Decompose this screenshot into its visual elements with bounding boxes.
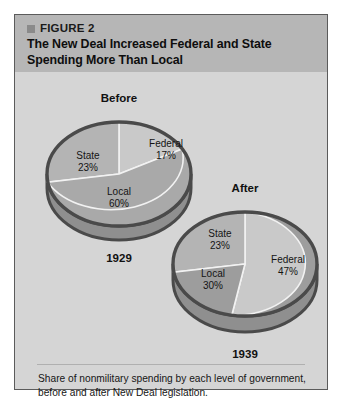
- figure-note: Share of nonmilitary spending by each le…: [38, 372, 318, 399]
- page-title-line-1: The New Deal Increased Federal and State: [27, 37, 317, 53]
- page-title-line-2: Spending More Than Local: [27, 53, 317, 69]
- page-title: The New Deal Increased Federal and State…: [27, 37, 317, 68]
- square-bullet-icon: [27, 25, 35, 33]
- figure-number: FIGURE 2: [40, 22, 95, 34]
- pie-after-title: After: [155, 182, 335, 194]
- pie-after-slice-state: [173, 212, 245, 272]
- figure-body: Before: [15, 72, 327, 391]
- pie-chart-after: After: [155, 182, 335, 372]
- pie-after-graphic: Federal 47% State 23% Local 30%: [169, 202, 321, 340]
- figure-note-line-2: before and after New Deal legislation.: [38, 386, 318, 400]
- pie-after-year: 1939: [155, 348, 335, 360]
- pie-after-svg: [169, 202, 321, 340]
- figure-label-row: FIGURE 2: [27, 21, 327, 35]
- figure-header: FIGURE 2 The New Deal Increased Federal …: [15, 15, 327, 72]
- caption-divider: [37, 364, 305, 365]
- figure-panel: FIGURE 2 The New Deal Increased Federal …: [14, 14, 328, 390]
- pie-before-title: Before: [29, 92, 209, 104]
- figure-note-line-1: Share of nonmilitary spending by each le…: [38, 372, 318, 386]
- pie-before-slice-state: [47, 122, 119, 182]
- figure-screenshot: FIGURE 2 The New Deal Increased Federal …: [0, 0, 342, 403]
